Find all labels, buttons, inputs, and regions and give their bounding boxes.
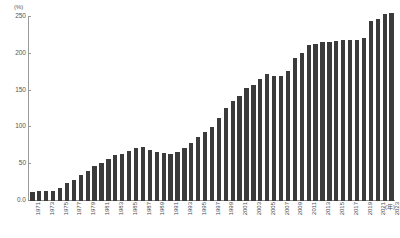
x-axis-tick-label: 2005 xyxy=(270,202,277,215)
bar xyxy=(244,88,248,201)
bar xyxy=(148,150,152,201)
bar xyxy=(127,151,131,201)
y-axis-tick-label: 250 xyxy=(15,12,26,19)
bar xyxy=(327,42,331,201)
x-axis-tick-label: 1983 xyxy=(118,202,125,215)
bar xyxy=(182,148,186,201)
y-axis-tick-label: 50 xyxy=(19,159,26,166)
bar xyxy=(51,191,55,201)
bar-slot xyxy=(86,16,90,201)
bar-slot xyxy=(279,16,283,201)
bar-slot xyxy=(113,16,117,201)
bar-slot xyxy=(134,16,138,201)
bar-slot xyxy=(203,16,207,201)
bar xyxy=(30,192,34,201)
bar xyxy=(162,153,166,201)
bar xyxy=(72,180,76,201)
bar xyxy=(231,101,235,201)
bar-slot xyxy=(348,16,352,201)
x-axis-tick-label: 2023 xyxy=(394,202,400,215)
bar-slot xyxy=(30,16,34,201)
x-axis-tick-label: 1999 xyxy=(228,202,235,215)
x-axis-tick-label: 2019 xyxy=(367,202,374,215)
bar xyxy=(369,21,373,201)
bar xyxy=(279,76,283,201)
bar-slot xyxy=(210,16,214,201)
bar xyxy=(210,127,214,201)
bar-slot xyxy=(369,16,373,201)
bar-slot xyxy=(231,16,235,201)
bar-slot xyxy=(182,16,186,201)
x-axis-tick-label: 1971 xyxy=(35,202,42,215)
bar-slot xyxy=(148,16,152,201)
bar-slot xyxy=(272,16,276,201)
bar xyxy=(320,42,324,201)
bar xyxy=(134,148,138,201)
bar xyxy=(286,71,290,201)
x-axis-tick-label: 2011 xyxy=(311,202,318,215)
bar-slot xyxy=(355,16,359,201)
bar-slot xyxy=(327,16,331,201)
x-axis-tick-label: 1985 xyxy=(132,202,139,215)
bar-slot xyxy=(141,16,145,201)
bar xyxy=(224,108,228,201)
bar xyxy=(251,85,255,201)
y-axis-tick-label: 200 xyxy=(15,49,26,56)
bar xyxy=(189,143,193,201)
bar-slot xyxy=(120,16,124,201)
bar xyxy=(99,163,103,201)
bar xyxy=(348,40,352,201)
bar xyxy=(355,40,359,201)
bar xyxy=(217,118,221,201)
x-axis-tick-label: 2013 xyxy=(325,202,332,215)
bar-slot xyxy=(51,16,55,201)
bar-slot xyxy=(334,16,338,201)
bar xyxy=(37,191,41,201)
bar xyxy=(362,38,366,201)
bar xyxy=(313,44,317,202)
x-axis-tick-label: 2003 xyxy=(256,202,263,215)
bar xyxy=(300,53,304,201)
y-axis-tick-label: 150 xyxy=(15,86,26,93)
bar-slot xyxy=(286,16,290,201)
bar-slot xyxy=(362,16,366,201)
bar-slot xyxy=(307,16,311,201)
x-axis-tick-label: 1981 xyxy=(104,202,111,215)
x-axis-tick-label: 2009 xyxy=(297,202,304,215)
bar xyxy=(92,166,96,201)
bar-slot xyxy=(65,16,69,201)
x-axis-tick-label: 2015 xyxy=(339,202,346,215)
x-axis-tick-label: 1987 xyxy=(146,202,153,215)
bar xyxy=(44,191,48,201)
x-axis-tick-label: 2007 xyxy=(284,202,291,215)
bar xyxy=(155,152,159,201)
bar-slot xyxy=(300,16,304,201)
bar xyxy=(258,79,262,201)
bar-slot xyxy=(162,16,166,201)
bar-slot xyxy=(79,16,83,201)
bar-slot xyxy=(376,16,380,201)
x-axis-tick-label: 1977 xyxy=(76,202,83,215)
bar-slot xyxy=(244,16,248,201)
plot-area xyxy=(29,16,395,201)
bar-slot xyxy=(237,16,241,201)
bar-slot xyxy=(155,16,159,201)
bar xyxy=(79,175,83,201)
bar-slot xyxy=(265,16,269,201)
x-axis-tick-label: 2001 xyxy=(242,202,249,215)
bar xyxy=(376,19,380,201)
debt-to-gdp-bar-chart: (%) 250200150100500.0 197119731975197719… xyxy=(0,0,400,238)
bar-slot xyxy=(72,16,76,201)
bar-slot xyxy=(217,16,221,201)
bar-slot xyxy=(106,16,110,201)
bar xyxy=(265,74,269,201)
bar xyxy=(196,137,200,201)
bar xyxy=(293,58,297,201)
bar-slot xyxy=(313,16,317,201)
bar xyxy=(106,159,110,201)
x-axis-tick-label: 1975 xyxy=(63,202,70,215)
bar xyxy=(307,45,311,201)
bar xyxy=(113,155,117,201)
x-axis-tick-label: 1989 xyxy=(159,202,166,215)
bar xyxy=(65,183,69,201)
